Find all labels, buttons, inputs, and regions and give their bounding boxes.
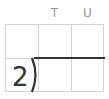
column-header-tens: T (38, 6, 71, 20)
long-division-bar (34, 57, 105, 59)
divisor: 2 (12, 63, 29, 91)
column-header-units: U (71, 6, 104, 20)
long-division-bracket-icon (29, 57, 39, 93)
